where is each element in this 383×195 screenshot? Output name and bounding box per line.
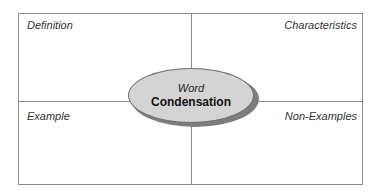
quadrant-label-definition: Definition xyxy=(27,19,73,31)
quadrant-label-non-examples: Non-Examples xyxy=(285,110,357,122)
quadrant-label-example: Example xyxy=(27,110,70,122)
center-term: Condensation xyxy=(151,95,231,109)
center-ellipse: Word Condensation xyxy=(128,68,254,123)
quadrant-label-characteristics: Characteristics xyxy=(284,19,357,31)
center-word-label: Word xyxy=(178,82,204,95)
